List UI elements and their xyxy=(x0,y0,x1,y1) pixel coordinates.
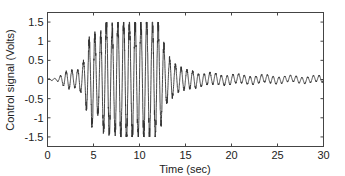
y-tick-label: 1 xyxy=(37,35,43,47)
y-tick-label: 0.5 xyxy=(28,54,43,66)
x-tick-label: 20 xyxy=(225,149,237,161)
y-tick-label: 1.5 xyxy=(28,16,43,28)
y-tick-label: -0.5 xyxy=(25,93,44,105)
y-tick-label: 0 xyxy=(37,74,43,86)
x-tick-label: 15 xyxy=(179,149,191,161)
plot-area xyxy=(48,22,324,137)
x-tick-label: 0 xyxy=(44,149,50,161)
x-tick-label: 10 xyxy=(133,149,145,161)
signal-line xyxy=(48,22,324,137)
x-tick-label: 5 xyxy=(90,149,96,161)
y-tick-label: -1.5 xyxy=(25,131,44,143)
control-signal-chart: 051015202530 -1.5-1-0.500.511.5 Time (se… xyxy=(0,0,345,176)
x-tick-label: 25 xyxy=(271,149,283,161)
x-tick-label: 30 xyxy=(317,149,329,161)
y-tick-label: -1 xyxy=(34,112,44,124)
x-axis-label: Time (sec) xyxy=(159,163,211,175)
y-axis-label: Control signal (Volts) xyxy=(4,29,16,131)
